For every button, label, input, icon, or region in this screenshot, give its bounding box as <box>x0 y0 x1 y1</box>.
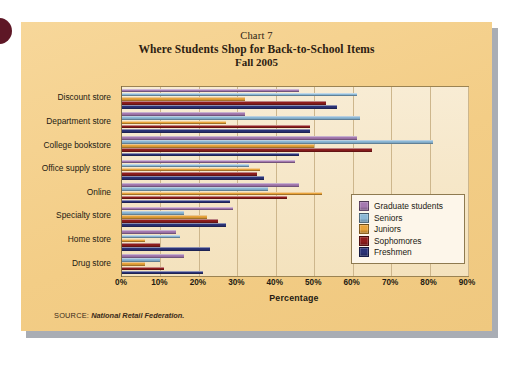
bar <box>122 168 260 172</box>
bar <box>122 215 207 219</box>
y-axis-label: Department store <box>15 116 111 126</box>
legend-item[interactable]: Sophomores <box>359 236 458 246</box>
bar <box>122 207 233 211</box>
bar <box>122 219 218 223</box>
bar <box>122 144 314 148</box>
x-axis-tick-label: 40% <box>267 278 283 287</box>
bar <box>122 262 145 266</box>
bar <box>122 148 372 152</box>
decorative-dot <box>0 18 12 44</box>
bar <box>122 101 326 105</box>
bar <box>122 230 176 234</box>
bar-group <box>122 134 468 158</box>
bar <box>122 211 184 215</box>
bar-group <box>122 158 468 182</box>
bar <box>122 183 299 187</box>
legend-label: Sophomores <box>374 236 422 246</box>
bar <box>122 112 245 116</box>
legend-label: Graduate students <box>374 201 443 211</box>
bar <box>122 164 249 168</box>
bar <box>122 153 299 157</box>
bar <box>122 129 310 133</box>
bar <box>122 140 433 144</box>
bar <box>122 93 357 97</box>
legend-label: Freshmen <box>374 247 412 257</box>
x-axis-tick-label: 90% <box>459 278 475 287</box>
source-note: SOURCE: National Retail Federation. <box>54 311 184 320</box>
x-axis-tick-label: 0% <box>115 278 127 287</box>
bar <box>122 235 180 239</box>
bar <box>122 258 160 262</box>
bar <box>122 192 322 196</box>
y-axis-label: Discount store <box>15 92 111 102</box>
legend-label: Juniors <box>374 224 401 234</box>
y-axis-label: Specialty store <box>15 210 111 220</box>
bar <box>122 254 184 258</box>
legend-item[interactable]: Freshmen <box>359 247 458 257</box>
y-axis-label: College bookstore <box>15 140 111 150</box>
bar <box>122 247 210 251</box>
chart-legend: Graduate studentsSeniorsJuniorsSophomore… <box>351 194 465 264</box>
x-axis-tick-label: 50% <box>305 278 321 287</box>
grid-line <box>468 87 469 276</box>
legend-label: Seniors <box>374 213 402 223</box>
chart-page: Chart 7 Where Students Shop for Back-to-… <box>0 0 519 366</box>
bar <box>122 172 257 176</box>
x-axis-tick-label: 70% <box>382 278 398 287</box>
y-axis-label: Drug store <box>15 258 111 268</box>
bar <box>122 97 245 101</box>
bar <box>122 176 264 180</box>
source-value: National Retail Federation. <box>91 311 184 320</box>
bar <box>122 160 295 164</box>
legend-swatch-icon <box>359 201 369 211</box>
x-axis-tick-label: 60% <box>343 278 359 287</box>
chart-card: Chart 7 Where Students Shop for Back-to-… <box>21 22 492 331</box>
chart-titles: Chart 7 Where Students Shop for Back-to-… <box>21 30 492 68</box>
bar-group <box>122 111 468 135</box>
legend-item[interactable]: Graduate students <box>359 201 458 211</box>
x-axis-tick-label: 20% <box>190 278 206 287</box>
bar-group <box>122 87 468 111</box>
bar <box>122 239 145 243</box>
bar <box>122 267 164 271</box>
legend-swatch-icon <box>359 247 369 257</box>
bar <box>122 196 287 200</box>
bar <box>122 200 230 204</box>
bar <box>122 136 357 140</box>
legend-swatch-icon <box>359 213 369 223</box>
y-axis-label: Online <box>15 187 111 197</box>
chart-title: Where Students Shop for Back-to-School I… <box>21 43 492 55</box>
legend-item[interactable]: Seniors <box>359 213 458 223</box>
x-axis-title: Percentage <box>121 293 467 303</box>
legend-item[interactable]: Juniors <box>359 224 458 234</box>
x-axis-labels: 0%10%20%30%40%50%60%70%80%90% <box>121 278 469 292</box>
bar <box>122 121 226 125</box>
legend-swatch-icon <box>359 236 369 246</box>
chart-number: Chart 7 <box>21 30 492 41</box>
bar <box>122 116 360 120</box>
source-label: SOURCE: <box>54 311 89 320</box>
chart-subtitle: Fall 2005 <box>21 56 492 68</box>
bar <box>122 187 268 191</box>
bar <box>122 105 337 109</box>
bar <box>122 223 226 227</box>
y-axis-label: Home store <box>15 234 111 244</box>
bar <box>122 243 160 247</box>
legend-swatch-icon <box>359 224 369 234</box>
bar <box>122 271 203 275</box>
bar <box>122 89 299 93</box>
x-axis-tick-label: 30% <box>228 278 244 287</box>
y-axis-labels: Discount storeDepartment storeCollege bo… <box>21 86 117 275</box>
x-axis-tick-label: 10% <box>151 278 167 287</box>
bar <box>122 125 310 129</box>
x-axis-tick-label: 80% <box>420 278 436 287</box>
y-axis-label: Office supply store <box>15 163 111 173</box>
